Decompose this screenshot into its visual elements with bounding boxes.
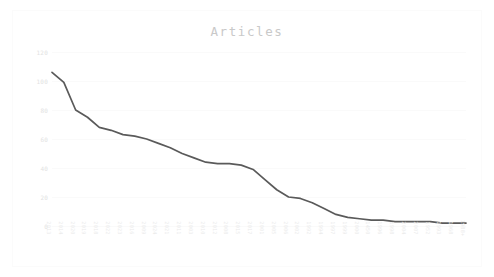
y-tick-label: 120 bbox=[37, 49, 48, 56]
x-tick-label: 2007 bbox=[413, 221, 419, 234]
chart-title: Articles bbox=[0, 24, 494, 39]
x-tick-label: 2013 bbox=[46, 221, 52, 234]
x-tick-label: 2006 bbox=[283, 221, 289, 234]
chart-container: Articles 120100806040200 201320142020201… bbox=[0, 0, 494, 277]
x-tick-label: 2012 bbox=[212, 221, 218, 234]
x-tick-label: 2003 bbox=[188, 221, 194, 234]
x-tick-label: 1988+ bbox=[460, 220, 466, 237]
x-tick-label: 1999 bbox=[342, 221, 348, 234]
x-tick-label: 1993 bbox=[436, 221, 442, 234]
x-tick-label: 2008 bbox=[223, 221, 229, 234]
x-tick-label: 2004 bbox=[401, 221, 407, 234]
x-tick-label: 1952 bbox=[425, 221, 431, 234]
x-tick-label: 1996 bbox=[377, 221, 383, 234]
x-tick-label: 2018 bbox=[93, 221, 99, 234]
series-polyline bbox=[52, 72, 466, 223]
x-tick-label: 2017 bbox=[247, 221, 253, 234]
x-tick-label: 2023 bbox=[117, 221, 123, 234]
y-tick-label: 20 bbox=[40, 194, 48, 201]
line-series bbox=[52, 52, 466, 226]
x-tick-label: 1998 bbox=[389, 221, 395, 234]
x-tick-label: 1994 bbox=[318, 221, 324, 234]
x-tick-label: 1968 bbox=[448, 221, 454, 234]
x-tick-label: 2001 bbox=[259, 221, 265, 234]
y-tick-label: 40 bbox=[40, 165, 48, 172]
x-tick-label: 2024 bbox=[152, 221, 158, 234]
y-tick-label: 100 bbox=[37, 78, 48, 85]
x-tick-label: 2020 bbox=[70, 221, 76, 234]
x-tick-label: 2011 bbox=[176, 221, 182, 234]
x-tick-label: 1992 bbox=[306, 221, 312, 234]
y-tick-label: 60 bbox=[40, 136, 48, 143]
x-tick-label: 1450 bbox=[365, 221, 371, 234]
x-tick-label: 2010 bbox=[200, 221, 206, 234]
y-tick-label: 80 bbox=[40, 107, 48, 114]
y-axis: 120100806040200 bbox=[18, 52, 48, 226]
x-tick-label: 2015 bbox=[235, 221, 241, 234]
x-tick-label: 2005 bbox=[271, 221, 277, 234]
x-tick-label: 2016 bbox=[129, 221, 135, 234]
x-tick-label: 2009 bbox=[141, 221, 147, 234]
x-tick-label: 2019 bbox=[81, 221, 87, 234]
x-tick-label: 2022 bbox=[105, 221, 111, 234]
x-axis: 2013201420202019201820222023201620092024… bbox=[52, 228, 466, 264]
x-tick-label: 2014 bbox=[58, 221, 64, 234]
x-tick-label: 2002 bbox=[294, 221, 300, 234]
x-tick-label: 2000 bbox=[354, 221, 360, 234]
x-tick-label: 1997 bbox=[330, 221, 336, 234]
plot-area bbox=[52, 52, 466, 226]
x-tick-label: 2021 bbox=[164, 221, 170, 234]
